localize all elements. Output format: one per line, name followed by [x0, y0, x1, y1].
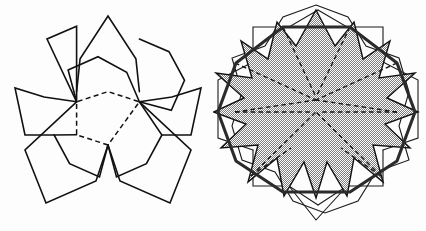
net-flap-lower-right	[108, 102, 162, 177]
net-flap-group-accurate	[15, 16, 201, 203]
net-flap-upper-right	[139, 39, 184, 110]
net-flap-group	[47, 26, 185, 177]
central-pentagon-fold-lines	[77, 92, 140, 145]
net-flap-upper-left	[47, 26, 77, 102]
right-figure-overlaid-nets	[213, 0, 426, 231]
shaded-star-region	[214, 10, 419, 198]
figure-canvas	[0, 0, 426, 231]
left-figure-pentagon-net	[0, 0, 213, 231]
flap-pentagon-bottom-left	[25, 102, 108, 203]
